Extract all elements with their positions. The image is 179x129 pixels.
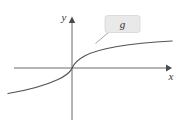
callout-leader-line xyxy=(96,33,109,44)
figure-container: y x g xyxy=(0,0,179,129)
callout-label-text: g xyxy=(120,18,126,30)
callout-g[interactable]: g xyxy=(105,16,140,33)
y-axis-label: y xyxy=(61,11,67,23)
y-axis-arrow-icon xyxy=(69,17,75,24)
curve-g xyxy=(8,41,172,94)
x-axis-label: x xyxy=(168,70,174,82)
function-graph-plot: y x g xyxy=(0,0,179,129)
x-axis xyxy=(14,65,172,72)
